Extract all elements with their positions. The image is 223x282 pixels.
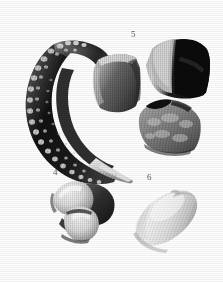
fragment-striations: [139, 102, 201, 154]
specimen-4-bilobate-element: [44, 174, 120, 244]
specimen-5-lower-right-fragment: [130, 96, 204, 160]
specimen-6-ovate-element: [126, 180, 206, 254]
figure-label-4: 4: [53, 168, 58, 177]
figure-label-6: 6: [147, 173, 152, 182]
fossil-plate: 5 4 6: [0, 0, 223, 282]
figure-label-5: 5: [131, 30, 136, 39]
specimen-5-upper-right-fragment: [138, 37, 212, 103]
fragment-striations: [146, 39, 210, 99]
